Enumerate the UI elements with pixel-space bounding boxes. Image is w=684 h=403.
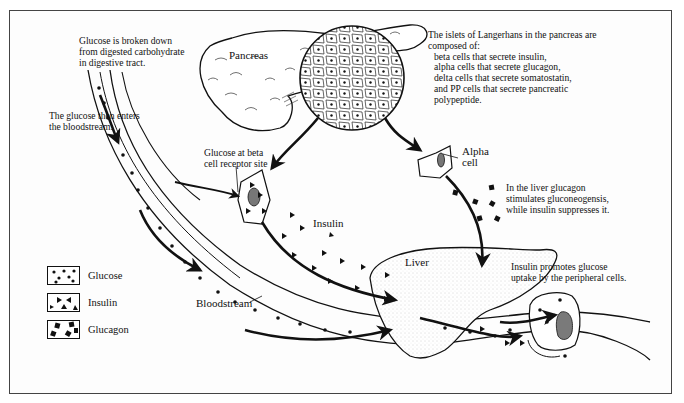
legend-label-glucose: Glucose	[88, 270, 122, 281]
bloodstream-label: Bloodstream	[196, 298, 252, 309]
legend-item-insulin: Insulin	[47, 293, 117, 312]
liver-glucagon-note: In the liver glucagon stimulates glucone…	[506, 183, 609, 215]
alpha-cell-label: Alpha cell	[462, 146, 489, 168]
legend-item-glucagon: Glucagon	[47, 320, 129, 339]
legend-label-insulin: Insulin	[88, 297, 117, 308]
liver-glucagon-line-2: stimulates gluconeogensis,	[506, 194, 609, 205]
insulin-triangle-icon	[47, 293, 80, 312]
bloodstream-entry-note: The glucose then enters the bloodstream.	[49, 111, 140, 133]
legend-label-glucagon: Glucagon	[88, 324, 129, 335]
digestion-note: Glucose is broken down from digested car…	[79, 36, 185, 68]
beta-receptor-note: Glucose at beta cell receptor site	[204, 148, 267, 170]
bloodstream-entry-line-2: the bloodstream.	[49, 122, 140, 133]
islets-item-pp-cont: polypeptide.	[428, 95, 597, 106]
legend-item-glucose: Glucose	[47, 266, 122, 285]
islets-note: The islets of Langerhans in the pancreas…	[428, 30, 597, 106]
peripheral-uptake-line-2: uptake by the peripheral cells.	[511, 273, 626, 284]
liver-label: Liver	[405, 257, 429, 268]
digestion-line-3: in digestive tract.	[79, 58, 185, 69]
digestion-line-2: from digested carbohydrate	[79, 47, 185, 58]
alpha-cell-label-line-2: cell	[462, 157, 489, 168]
insulin-label: Insulin	[313, 218, 344, 229]
glucagon-square-icon	[47, 320, 80, 339]
beta-receptor-line-2: cell receptor site	[204, 159, 267, 170]
peripheral-uptake-note: Insulin promotes glucose uptake by the p…	[511, 262, 626, 284]
liver-glucagon-line-3: while insulin suppresses it.	[506, 205, 609, 216]
glucose-dot-icon	[47, 266, 80, 285]
beta-cell	[238, 170, 270, 224]
peripheral-cell	[528, 293, 580, 357]
pancreas-label: Pancreas	[229, 50, 268, 61]
islets-intro-line-2: composed of:	[428, 41, 597, 52]
alpha-cell	[418, 146, 452, 178]
